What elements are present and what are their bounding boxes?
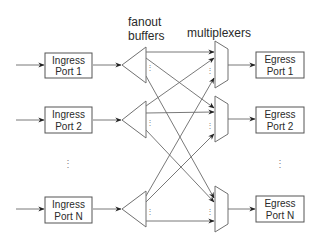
fanout-buffer-2: ⋮ <box>122 101 154 138</box>
fanout-buffer-1-ellipsis: ⋮ <box>146 63 154 72</box>
ingress-port-1: Ingress Port 1 <box>45 53 92 78</box>
fanout-buffer-2-ellipsis: ⋮ <box>146 118 154 127</box>
egress-port-1-line1: Egress <box>264 54 295 65</box>
buffers-label: buffers <box>128 29 164 43</box>
egress-port-2-line2: Port 2 <box>267 121 294 132</box>
multiplexer-1-ellipsis: ⋮ <box>206 66 214 75</box>
egress-port-1: Egress Port 1 <box>256 52 304 78</box>
ingress-port-n-line1: Ingress <box>52 199 85 210</box>
ingress-port-n: Ingress Port N <box>45 197 92 223</box>
fanout-buffer-n: ⋮ <box>122 191 154 227</box>
multiplexer-n: ⋮ <box>206 186 228 232</box>
egress-ellipsis: ⋮ <box>275 158 285 169</box>
egress-port-n: Egress Port N <box>256 196 304 222</box>
egress-port-n-line2: Port N <box>266 210 294 221</box>
ingress-port-1-line1: Ingress <box>52 55 85 66</box>
fanout-label: fanout <box>128 15 162 29</box>
multiplexer-2-ellipsis: ⋮ <box>206 121 214 130</box>
egress-port-2: Egress Port 2 <box>256 107 304 133</box>
switch-diagram: fanout buffers multiplexers Ingress Port… <box>0 0 320 240</box>
ingress-port-1-line2: Port 1 <box>55 66 82 77</box>
fanout-buffer-n-ellipsis: ⋮ <box>146 207 154 216</box>
egress-port-2-line1: Egress <box>264 109 295 120</box>
ingress-ellipsis: ⋮ <box>63 158 73 169</box>
egress-port-n-line1: Egress <box>264 198 295 209</box>
egress-port-1-line2: Port 1 <box>267 66 294 77</box>
ingress-port-2-line1: Ingress <box>52 109 85 120</box>
multiplexers-label: multiplexers <box>187 26 251 40</box>
ingress-port-2: Ingress Port 2 <box>45 107 92 133</box>
crossbar-wires <box>146 52 214 221</box>
multiplexer-2: ⋮ <box>206 96 228 142</box>
ingress-port-2-line2: Port 2 <box>55 121 82 132</box>
multiplexer-n-ellipsis: ⋮ <box>206 207 214 216</box>
ingress-port-n-line2: Port N <box>54 211 82 222</box>
multiplexer-1: ⋮ <box>206 41 228 88</box>
